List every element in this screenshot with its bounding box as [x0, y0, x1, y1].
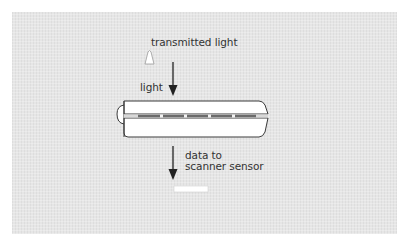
data-to-label: data to	[185, 150, 222, 160]
transmitted-light-arrow-icon	[169, 62, 178, 96]
transmitted-light-label: transmitted light	[151, 37, 237, 47]
data-arrow-icon	[169, 146, 178, 180]
scanner-sensor-label: scanner sensor	[185, 161, 264, 171]
film-strip	[124, 115, 268, 118]
scanner-sensor-icon	[174, 186, 208, 192]
light-label: light	[140, 82, 163, 92]
light-bulb-icon	[145, 51, 154, 65]
film-holder-icon	[117, 101, 268, 137]
